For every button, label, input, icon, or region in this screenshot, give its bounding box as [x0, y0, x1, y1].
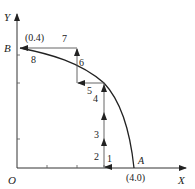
step-3-arrow-icon	[101, 112, 107, 120]
step-2-arrow-icon	[101, 138, 107, 146]
step-label-6: 6	[79, 57, 84, 68]
step-label-5: 5	[87, 85, 92, 96]
y-axis-label: Y	[4, 11, 12, 23]
step-label-2: 2	[94, 151, 99, 162]
origin-label: O	[8, 174, 16, 186]
point-b-label: B	[4, 42, 11, 54]
point-a-coord: (4.0)	[126, 172, 145, 184]
interpolation-diagram: Y X O B (0.4) A (4.0) 1 2 3 4 5 6 7 8	[0, 0, 195, 189]
step-label-1: 1	[107, 153, 112, 164]
step-label-7: 7	[62, 33, 67, 44]
point-b-coord: (0.4)	[25, 32, 44, 44]
x-axis-label: X	[177, 174, 186, 186]
step-label-3: 3	[94, 129, 99, 140]
step-label-8: 8	[31, 54, 36, 65]
point-a-label: A	[137, 155, 145, 166]
step-label-4: 4	[93, 93, 98, 104]
